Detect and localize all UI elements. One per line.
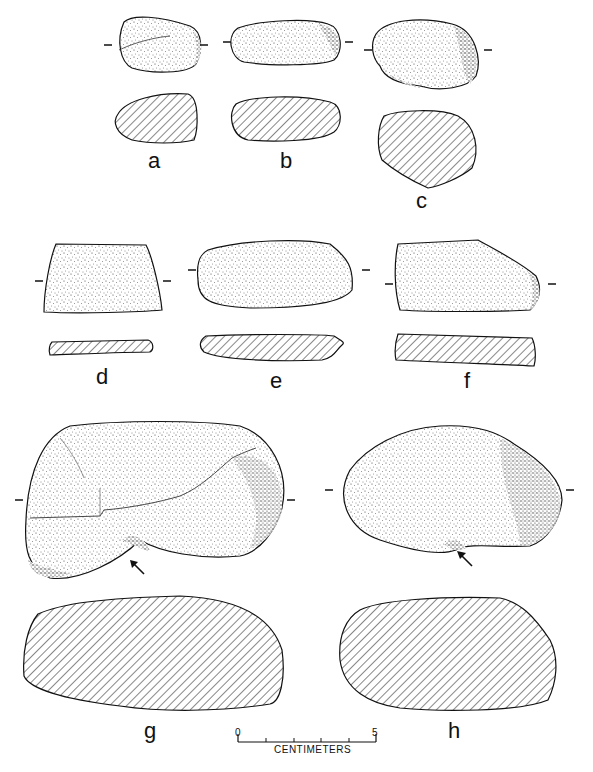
label-b: b bbox=[280, 150, 292, 172]
specimen-g-section bbox=[24, 596, 284, 710]
label-c: c bbox=[416, 190, 427, 212]
specimen-e bbox=[188, 241, 370, 361]
specimen-a-section bbox=[115, 94, 197, 143]
arrow-icon bbox=[457, 551, 472, 566]
arrow-icon bbox=[130, 560, 144, 574]
specimen-f-surface bbox=[395, 240, 539, 312]
scale-end: 5 bbox=[372, 728, 378, 738]
specimen-c-section bbox=[378, 111, 476, 188]
specimen-d-section bbox=[49, 340, 153, 355]
label-f: f bbox=[464, 370, 470, 392]
specimen-b-section bbox=[232, 97, 341, 141]
specimen-e-surface bbox=[197, 241, 352, 308]
specimen-a bbox=[104, 17, 208, 143]
specimen-f bbox=[385, 240, 556, 366]
specimen-h bbox=[325, 426, 574, 711]
specimen-e-section bbox=[200, 335, 343, 361]
specimen-b bbox=[223, 21, 353, 142]
scale-bar bbox=[238, 734, 376, 742]
specimen-f-section bbox=[395, 334, 535, 366]
label-d: d bbox=[96, 366, 108, 388]
label-a: a bbox=[148, 150, 160, 172]
scale-start: 0 bbox=[235, 728, 241, 738]
specimen-h-section bbox=[340, 598, 556, 711]
specimen-d bbox=[35, 244, 171, 355]
specimen-g-surface bbox=[26, 422, 284, 579]
scale-unit: CENTIMETERS bbox=[274, 745, 351, 755]
label-g: g bbox=[144, 720, 156, 742]
label-e: e bbox=[270, 370, 282, 392]
artifact-plate bbox=[0, 0, 593, 772]
label-h: h bbox=[448, 720, 460, 742]
specimen-g bbox=[15, 422, 295, 711]
specimen-d-surface bbox=[44, 244, 162, 313]
specimen-c bbox=[364, 20, 492, 188]
